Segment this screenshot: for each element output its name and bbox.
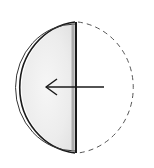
sketch-drawing	[0, 0, 154, 168]
half-circle-arrow-sketch	[0, 0, 154, 168]
